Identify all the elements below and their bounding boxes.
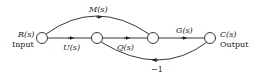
signal-flow-graph: R(s) Input C(s) Output U(s) Q(s) G(s) M(…	[0, 0, 259, 78]
gain-u-label: U(s)	[63, 43, 80, 52]
node-2	[92, 33, 103, 44]
gain-m-label: M(s)	[88, 5, 108, 14]
input-var-label: R(s)	[17, 30, 34, 39]
gain-q-label: Q(s)	[117, 43, 134, 52]
gain-g-label: G(s)	[176, 26, 193, 35]
output-text-label: Output	[220, 40, 249, 49]
gain-feedback-label: −1	[151, 65, 163, 74]
node-3	[148, 33, 159, 44]
node-input	[37, 33, 48, 44]
branch-m	[46, 16, 149, 34]
output-var-label: C(s)	[220, 30, 236, 39]
node-output	[205, 33, 216, 44]
input-text-label: Input	[12, 40, 35, 49]
